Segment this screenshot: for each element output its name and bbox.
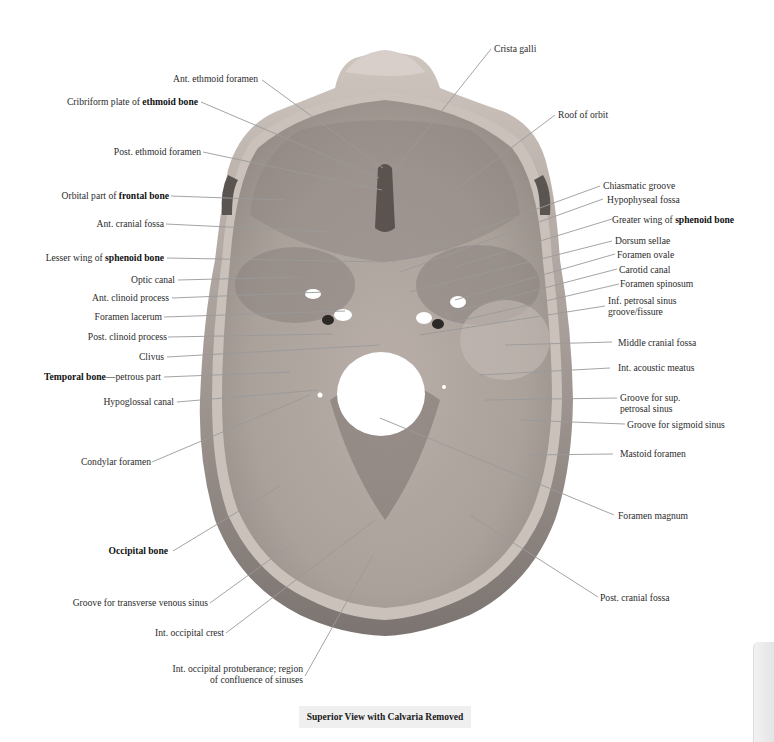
label-hypoglossal-canal: Hypoglossal canal (103, 396, 174, 407)
label-carotid-canal: Carotid canal (619, 264, 670, 275)
label-temporal-bone-petrous: Temporal bone—petrous part (44, 371, 161, 382)
label-inf-petrosal-sinus: Inf. petrosal sinusgroove/fissure (608, 295, 676, 317)
label-int-occipital-crest: Int. occipital crest (155, 627, 224, 638)
label-roof-of-orbit: Roof of orbit (558, 109, 608, 120)
label-crista-galli: Crista galli (494, 43, 536, 54)
label-foramen-ovale: Foramen ovale (617, 249, 674, 260)
label-orbital-part-frontal: Orbital part of frontal bone (62, 190, 169, 201)
label-ant-cranial-fossa: Ant. cranial fossa (97, 218, 164, 229)
label-foramen-magnum: Foramen magnum (618, 510, 688, 521)
label-groove-sup-petrosal: Groove for sup.petrosal sinus (620, 392, 680, 414)
label-post-clinoid-process: Post. clinoid process (88, 331, 167, 342)
label-chiasmatic-groove: Chiasmatic groove (603, 180, 675, 191)
label-int-acoustic-meatus: Int. acoustic meatus (618, 362, 694, 373)
label-ant-ethmoid-foramen: Ant. ethmoid foramen (173, 73, 258, 84)
label-middle-cranial-fossa: Middle cranial fossa (618, 337, 696, 348)
label-post-cranial-fossa: Post. cranial fossa (600, 592, 670, 603)
label-ant-clinoid-process: Ant. clinoid process (92, 292, 169, 303)
label-int-occipital-protuberance: Int. occipital protuberance; regionof co… (172, 663, 303, 685)
figure-caption: Superior View with Calvaria Removed (299, 706, 471, 728)
label-foramen-lacerum: Foramen lacerum (95, 311, 162, 322)
label-lesser-wing-sphenoid: Lesser wing of sphenoid bone (46, 252, 164, 263)
label-dorsum-sellae: Dorsum sellae (615, 235, 670, 246)
label-optic-canal: Optic canal (131, 274, 175, 285)
label-condylar-foramen: Condylar foramen (81, 456, 151, 467)
label-mastoid-foramen: Mastoid foramen (620, 448, 686, 459)
label-post-ethmoid-foramen: Post. ethmoid foramen (114, 146, 201, 157)
page-edge-tab[interactable] (753, 642, 774, 742)
label-hypophyseal-fossa: Hypophyseal fossa (607, 194, 680, 205)
label-occipital-bone: Occipital bone (109, 545, 168, 556)
label-clivus: Clivus (139, 351, 164, 362)
label-cribriform-plate: Cribriform plate of ethmoid bone (67, 96, 198, 107)
label-groove-sigmoid-sinus: Groove for sigmoid sinus (627, 419, 725, 430)
label-foramen-spinosum: Foramen spinosum (620, 278, 693, 289)
label-greater-wing-sphenoid: Greater wing of sphenoid bone (612, 214, 734, 225)
label-groove-transverse-sinus: Groove for transverse venous sinus (73, 597, 208, 608)
